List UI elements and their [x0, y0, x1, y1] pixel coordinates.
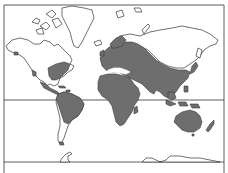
range-alaska-spot: [14, 52, 18, 55]
antarctica-outline: [142, 156, 220, 162]
range-japan: [190, 62, 198, 74]
range-australia: [174, 110, 202, 132]
range-indonesia: [166, 100, 200, 108]
range-caribbean: [58, 86, 70, 92]
oceania: [174, 110, 214, 136]
range-british-isles: [100, 50, 104, 56]
iceland-outline: [94, 40, 102, 46]
arctic-islands-outline: [32, 10, 62, 34]
range-madagascar: [134, 106, 138, 114]
range-new-zealand: [206, 120, 214, 132]
svalbard-outline: [116, 8, 142, 18]
antarctic-peninsula-outline: [60, 152, 72, 162]
world-distribution-map: [0, 0, 228, 173]
range-tasmania: [192, 134, 194, 136]
greenland-outline: [62, 6, 94, 48]
north-america: [6, 6, 102, 95]
south-america: [56, 92, 84, 145]
eurasia-africa: [98, 8, 218, 126]
antarctica: [60, 152, 220, 162]
range-tierra-del-fuego: [59, 142, 64, 145]
range-philippines: [184, 86, 188, 92]
